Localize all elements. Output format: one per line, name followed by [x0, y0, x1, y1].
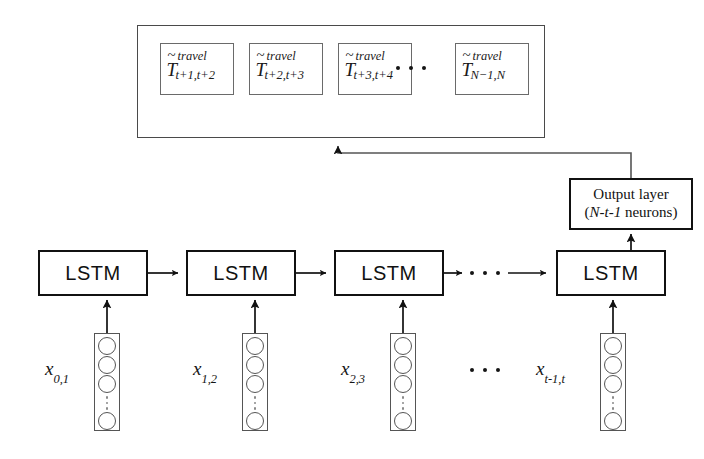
input-vertical-ellipsis [106, 394, 109, 412]
input-node [604, 337, 622, 355]
lstm-cell-1: LSTM [38, 250, 148, 296]
tilde-accent-icon: ~ [463, 48, 471, 63]
tilde-accent-icon: ~ [168, 48, 176, 63]
input-label-1-subscript: 0,1 [53, 372, 69, 386]
output-layer-to-container-arrow [338, 146, 631, 178]
input-label-3-subscript: 2,3 [349, 372, 365, 386]
input-ellipsis [470, 368, 500, 372]
lstm-cell-1-label: LSTM [65, 262, 120, 285]
lstm-cell-4: LSTM [556, 250, 666, 296]
lstm-cell-3-label: LSTM [361, 262, 416, 285]
output-layer-box: Output layer (N-t-1 neurons) [569, 178, 693, 230]
input-node [98, 412, 116, 430]
lstm-cell-4-label: LSTM [583, 262, 638, 285]
travel-time-superscript-3: travel [356, 50, 385, 63]
input-node [246, 412, 264, 430]
input-node [394, 337, 412, 355]
input-node [246, 375, 264, 393]
input-vector-1 [94, 333, 120, 431]
input-label-3: x2,3 [341, 358, 365, 384]
output-layer-neurons-suffix: neurons) [621, 204, 677, 220]
lstm-cell-2: LSTM [186, 250, 296, 296]
lstm-architecture-diagram: ~ T travel t+1,t+2 ~ T travel t+2,t+3 ~ … [0, 0, 704, 459]
input-to-lstm-arrows [107, 300, 613, 333]
input-label-4-subscript: t-1,t [544, 372, 564, 386]
tilde-accent-icon: ~ [346, 48, 354, 63]
travel-time-subscript-2: t+2,t+3 [265, 69, 304, 82]
input-vertical-ellipsis [612, 394, 615, 412]
input-vertical-ellipsis [402, 394, 405, 412]
input-node [394, 375, 412, 393]
output-layer-neurons: (N-t-1 neurons) [585, 204, 678, 222]
input-node [246, 356, 264, 374]
input-vector-2 [242, 333, 268, 431]
input-node [98, 337, 116, 355]
travel-time-box-2: ~ T travel t+2,t+3 [249, 43, 323, 95]
travel-time-subscript-4: N−1,N [471, 69, 506, 82]
travel-time-superscript-4: travel [473, 50, 502, 63]
input-vertical-ellipsis [254, 394, 257, 412]
input-node [604, 356, 622, 374]
travel-time-box-4: ~ T travel N−1,N [455, 43, 529, 95]
travel-time-subscript-1: t+1,t+2 [176, 69, 215, 82]
lstm-chain-ellipsis [470, 271, 500, 275]
output-layer-title: Output layer [593, 186, 668, 204]
input-vector-4 [600, 333, 626, 431]
travel-time-superscript-2: travel [267, 50, 296, 63]
input-label-2-subscript: 1,2 [201, 372, 217, 386]
input-label-4: xt-1,t [536, 358, 565, 384]
input-node [98, 356, 116, 374]
travel-time-subscript-3: t+3,t+4 [354, 69, 393, 82]
input-node [246, 337, 264, 355]
tilde-accent-icon: ~ [257, 48, 265, 63]
input-node [604, 375, 622, 393]
input-vector-3 [390, 333, 416, 431]
input-label-2: x1,2 [193, 358, 217, 384]
input-node [604, 412, 622, 430]
travel-time-ellipsis [396, 66, 426, 70]
input-label-1: x0,1 [45, 358, 69, 384]
input-node [394, 412, 412, 430]
output-layer-neuron-count: N-t-1 [590, 204, 622, 220]
input-node [394, 356, 412, 374]
lstm-cell-2-label: LSTM [213, 262, 268, 285]
travel-time-box-1: ~ T travel t+1,t+2 [160, 43, 234, 95]
travel-time-superscript-1: travel [178, 50, 207, 63]
input-node [98, 375, 116, 393]
lstm-cell-3: LSTM [334, 250, 444, 296]
